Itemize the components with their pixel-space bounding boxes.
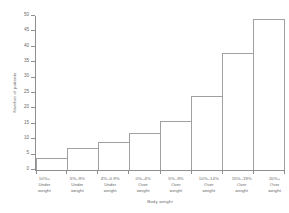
y-tick: 25 xyxy=(31,92,35,93)
y-tick-label: 40 xyxy=(24,43,29,49)
y-tick: 30 xyxy=(31,77,35,78)
bar-chart: Number of patients 05101520253035404550 … xyxy=(0,0,289,213)
y-tick-label: 20 xyxy=(24,104,29,110)
x-axis-tick-labels: 10%+Underweight5%–9%Underweight4%–0.9%Un… xyxy=(28,176,289,195)
y-tick: 0 xyxy=(31,169,35,170)
x-tick xyxy=(36,171,67,174)
x-tick xyxy=(98,171,129,174)
y-tick-label: 10 xyxy=(24,135,29,141)
bar xyxy=(129,133,161,170)
bar-series xyxy=(36,16,285,170)
x-tick xyxy=(192,171,223,174)
y-tick-label: 5 xyxy=(26,150,29,156)
x-tick-label-line: weight xyxy=(127,188,160,194)
y-tick: 50 xyxy=(31,15,35,16)
x-tick xyxy=(161,171,192,174)
x-tick-label-line: weight xyxy=(160,188,193,194)
x-tick xyxy=(223,171,254,174)
x-tick-label-line: weight xyxy=(225,188,258,194)
y-tick-label: 50 xyxy=(24,12,29,18)
y-tick: 40 xyxy=(31,46,35,47)
x-tick xyxy=(67,171,98,174)
y-tick: 15 xyxy=(31,123,35,124)
bar xyxy=(191,96,223,170)
x-tick-label: 5%–9%Underweight xyxy=(61,176,94,195)
y-tick-label: 45 xyxy=(24,27,29,33)
x-axis-ticks xyxy=(36,171,285,174)
y-tick-label: 15 xyxy=(24,120,29,126)
x-tick-label-line: weight xyxy=(28,188,61,194)
x-tick-label-line: weight xyxy=(192,188,225,194)
y-tick-label: 0 xyxy=(26,166,29,172)
x-tick-label-line: weight xyxy=(258,188,289,194)
plot-area: 05101520253035404550 xyxy=(35,16,285,171)
y-tick: 20 xyxy=(31,107,35,108)
y-tick-label: 35 xyxy=(24,58,29,64)
y-tick-label: 30 xyxy=(24,73,29,79)
x-tick xyxy=(254,171,285,174)
x-tick-label: 20%+Overweight xyxy=(258,176,289,195)
x-tick-label: 10%+Underweight xyxy=(28,176,61,195)
y-axis-title: Number of patients xyxy=(12,38,17,148)
bar xyxy=(36,158,68,170)
bar xyxy=(98,142,130,170)
x-tick xyxy=(129,171,160,174)
x-tick-label-line: weight xyxy=(61,188,94,194)
y-tick-label: 25 xyxy=(24,89,29,95)
x-tick-label: 5%–9%Overweight xyxy=(160,176,193,195)
x-tick-label-line: weight xyxy=(94,188,127,194)
y-tick: 10 xyxy=(31,138,35,139)
bar xyxy=(160,121,192,170)
x-tick-label: 0%–4%Overweight xyxy=(127,176,160,195)
bar xyxy=(253,19,285,170)
y-tick: 5 xyxy=(31,154,35,155)
y-tick: 45 xyxy=(31,30,35,31)
bar xyxy=(222,53,254,170)
x-axis-title: Body weight xyxy=(35,199,285,204)
y-tick: 35 xyxy=(31,61,35,62)
x-tick-label: 4%–0.9%Underweight xyxy=(94,176,127,195)
x-tick-label: 10%–14%Overweight xyxy=(192,176,225,195)
bar xyxy=(67,148,99,170)
x-tick-label: 15%–19%Overweight xyxy=(225,176,258,195)
